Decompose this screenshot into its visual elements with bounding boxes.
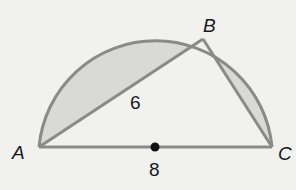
label-c: C (278, 143, 292, 164)
label-ab-length: 6 (130, 92, 141, 113)
label-ac-length: 8 (149, 159, 160, 180)
center-point (151, 143, 160, 152)
label-a: A (11, 142, 25, 163)
label-b: B (203, 15, 216, 36)
semicircle-diagram: A B C 6 8 (0, 0, 296, 190)
